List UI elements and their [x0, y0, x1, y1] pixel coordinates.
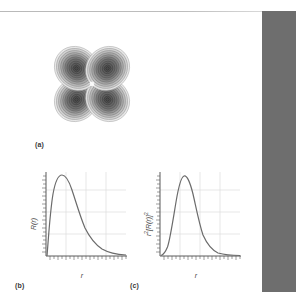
- orbital-contour-plot: [44, 36, 140, 132]
- panel-c-tag: (c): [130, 282, 139, 289]
- panel-b-curve: [47, 175, 126, 256]
- panel-c-gridlines: [160, 172, 240, 256]
- orbital-contour-svg: [44, 36, 140, 132]
- panel-b-gridlines: [46, 172, 126, 256]
- panel-c-x-ticks: [164, 256, 240, 260]
- panel-b-tag: (b): [15, 282, 25, 289]
- panel-a-tag: (a): [35, 141, 44, 148]
- right-margin-bar: [262, 11, 296, 292]
- panel-c-x-axis-label: r: [186, 272, 206, 279]
- panel-b-y-axis-label: R(r): [30, 218, 37, 230]
- panel-b-x-axis-label: r: [72, 272, 92, 279]
- radial-wavefunction-plot: [36, 168, 128, 264]
- orbital-node-center: [90, 82, 95, 87]
- panel-c-curve: [161, 176, 240, 256]
- header-divider: [0, 11, 262, 12]
- panel-b-svg: [36, 168, 128, 264]
- panel-c-y-ticks: [156, 176, 160, 252]
- panel-c-svg: [150, 168, 242, 264]
- panel-b-x-ticks: [50, 256, 126, 260]
- radial-distribution-plot: [150, 168, 242, 264]
- figure-canvas: (a): [0, 0, 302, 303]
- panel-b-y-ticks: [42, 176, 46, 252]
- panel-c-y-axis-label: r2[R(r)]2: [143, 212, 152, 236]
